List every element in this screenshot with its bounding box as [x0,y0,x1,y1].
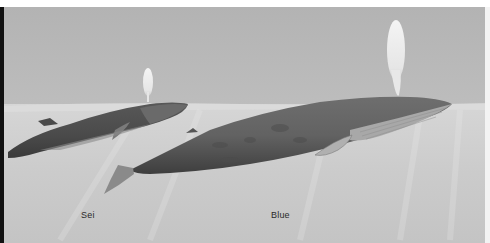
whale-scene [0,0,490,243]
sky [4,7,485,107]
sei-label: Sei [81,210,95,220]
left-border [0,7,4,243]
whale-illustration: Sei Blue [0,0,490,243]
blue-label: Blue [271,210,290,220]
sei-spout [143,68,153,96]
right-border [485,7,490,243]
top-border [0,0,490,8]
